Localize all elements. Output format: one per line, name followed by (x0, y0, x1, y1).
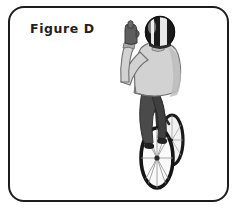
page-title: Figure D (30, 21, 95, 36)
figure-panel: Figure D (0, 0, 237, 209)
